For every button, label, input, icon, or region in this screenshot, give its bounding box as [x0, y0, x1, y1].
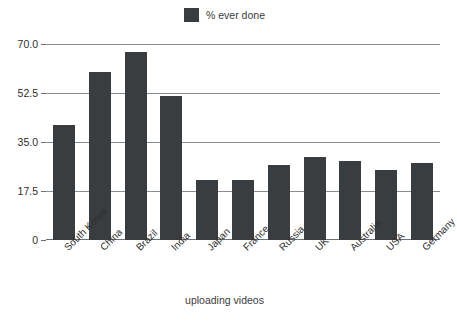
bar-australia[interactable]: [339, 161, 361, 240]
bar-india[interactable]: [160, 96, 182, 240]
bar-slot-france: [225, 44, 261, 240]
y-axis-label-17-5: 17.5: [18, 185, 38, 197]
bar-slot-brazil: [118, 44, 154, 240]
bar-slot-russia: [261, 44, 297, 240]
x-axis-tick-labels: South Korea China Brazil India Japan Fra…: [46, 243, 440, 291]
bar-france[interactable]: [232, 180, 254, 240]
legend-label: % ever done: [206, 10, 265, 21]
bar-slot-india: [153, 44, 189, 240]
tick-0: [41, 240, 46, 241]
chart-legend: % ever done: [0, 8, 449, 22]
bar-slot-south-korea: [46, 44, 82, 240]
y-axis-label-0: 0: [32, 234, 38, 246]
y-axis-label-52-5: 52.5: [18, 87, 38, 99]
bar-uk[interactable]: [304, 157, 326, 240]
y-axis-label-70: 70.0: [18, 38, 38, 50]
bar-slot-australia: [333, 44, 369, 240]
bar-slot-japan: [189, 44, 225, 240]
bar-south-korea[interactable]: [53, 125, 75, 240]
legend-item-percent-ever-done: % ever done: [184, 8, 265, 22]
y-axis-label-35: 35.0: [18, 136, 38, 148]
bar-brazil[interactable]: [125, 52, 147, 240]
bar-slot-uk: [297, 44, 333, 240]
bar-slot-usa: [368, 44, 404, 240]
bar-slot-germany: [404, 44, 440, 240]
bar-germany[interactable]: [411, 163, 433, 240]
bar-japan[interactable]: [196, 180, 218, 240]
legend-swatch-icon: [184, 8, 199, 22]
x-axis-title: uploading videos: [0, 294, 449, 306]
bar-russia[interactable]: [268, 165, 290, 240]
